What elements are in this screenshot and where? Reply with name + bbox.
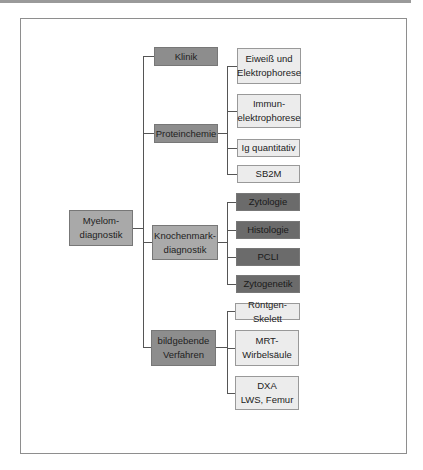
node-eiweiss-elektrophorese: Eiweiß und Elektrophorese	[237, 48, 301, 84]
node-klinik: Klinik	[154, 47, 218, 66]
connector-zytologie	[227, 202, 236, 203]
connector-bild	[143, 347, 151, 348]
connector-bild-trunk	[227, 311, 228, 393]
connector-knochen-out	[218, 242, 227, 243]
connector-ig	[227, 148, 237, 149]
node-proteinchemie: Proteinchemie	[154, 124, 218, 143]
node-sb2m: SB2M	[237, 165, 300, 183]
connector-histologie	[227, 230, 236, 231]
connector-knochen-trunk	[227, 202, 228, 284]
node-dxa-lws-femur: DXA LWS, Femur	[235, 376, 299, 410]
connector-root	[133, 228, 143, 229]
node-mrt-wirbelsaeule: MRT- Wirbelsäule	[235, 330, 299, 366]
connector-protein	[143, 133, 154, 134]
connector-trunk	[143, 56, 144, 348]
node-ig-quantitativ: Ig quantitativ	[237, 139, 300, 157]
node-immunelektrophorese: Immun- elektrophorese	[237, 94, 301, 128]
node-bildgebende-verfahren: bildgebende Verfahren	[151, 330, 216, 366]
node-knochenmarkdiagnostik: Knochenmark- diagnostik	[152, 225, 218, 260]
node-pcli: PCLI	[236, 248, 300, 266]
top-rule	[0, 0, 411, 3]
connector-klinik	[143, 56, 154, 57]
connector-protein-out	[218, 133, 227, 134]
connector-knochen	[143, 242, 152, 243]
connector-eiweiss	[227, 66, 237, 67]
connector-bild-out	[216, 347, 227, 348]
connector-sb2m	[227, 174, 237, 175]
connector-dxa	[227, 393, 235, 394]
connector-protein-trunk	[227, 66, 228, 174]
node-myelomdiagnostik: Myelom- diagnostik	[69, 210, 133, 246]
connector-roentgen	[227, 311, 235, 312]
connector-immun	[227, 111, 237, 112]
connector-zytogenetik	[227, 284, 236, 285]
node-zytologie: Zytologie	[236, 193, 300, 211]
node-roentgen-skelett: Röntgen-Skelett	[235, 303, 300, 320]
node-histologie: Histologie	[236, 221, 300, 239]
node-zytogenetik: Zytogenetik	[236, 275, 300, 293]
connector-mrt	[227, 348, 235, 349]
connector-pcli	[227, 257, 236, 258]
